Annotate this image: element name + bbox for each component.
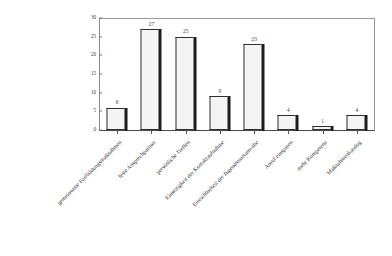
bar-body xyxy=(346,115,364,130)
x-axis-tick-mark xyxy=(117,130,118,134)
bar[interactable]: 4 xyxy=(278,115,299,130)
x-axis-tick-mark xyxy=(186,130,187,134)
bar-slot: 6 xyxy=(100,18,134,130)
y-axis-tick-label: 15 xyxy=(91,71,96,76)
bar[interactable]: 23 xyxy=(244,44,265,130)
bar-value-label: 23 xyxy=(251,37,256,42)
y-axis-tick-label: 20 xyxy=(91,53,96,58)
bar-shadow xyxy=(262,44,265,131)
bar-slot: 25 xyxy=(169,18,203,130)
x-axis-tick-mark xyxy=(323,130,324,134)
bar-body xyxy=(244,44,262,130)
bar-shadow xyxy=(227,96,230,131)
bars-container: 62725923414 xyxy=(100,18,374,130)
bar-shadow xyxy=(193,37,196,131)
bar-body xyxy=(312,126,330,130)
bar-value-label: 27 xyxy=(149,22,154,27)
y-axis-tick-label: 10 xyxy=(91,90,96,95)
bar-value-label: 6 xyxy=(116,100,119,105)
bar-shadow xyxy=(364,115,367,131)
x-axis-tick-mark xyxy=(288,130,289,134)
x-axis-tick-mark xyxy=(220,130,221,134)
bar[interactable]: 4 xyxy=(346,115,367,130)
bar-value-label: 1 xyxy=(321,119,324,124)
bar-body xyxy=(141,29,159,130)
x-axis-tick-mark xyxy=(151,130,152,134)
bar-body xyxy=(107,108,125,130)
bar[interactable]: 25 xyxy=(175,37,196,130)
x-axis-tick-mark xyxy=(254,130,255,134)
bar-value-label: 25 xyxy=(183,29,188,34)
bar-shadow xyxy=(159,29,162,131)
bar-body xyxy=(175,37,193,130)
bar[interactable]: 27 xyxy=(141,29,162,130)
bar-value-label: 4 xyxy=(356,108,359,113)
bar-slot: 9 xyxy=(203,18,237,130)
y-axis-tick-label: 5 xyxy=(94,109,97,114)
bar-slot: 1 xyxy=(306,18,340,130)
bar-chart-figure: 051015202530 62725923414 gemeinsame Fort… xyxy=(0,0,392,256)
bar-slot: 23 xyxy=(237,18,271,130)
bar-slot: 4 xyxy=(340,18,374,130)
bar-slot: 4 xyxy=(271,18,305,130)
x-axis-tick-mark xyxy=(357,130,358,134)
bar-slot: 27 xyxy=(134,18,168,130)
bar-body xyxy=(209,96,227,130)
y-axis-tick-label: 0 xyxy=(94,127,97,132)
bar[interactable]: 6 xyxy=(107,108,128,130)
bar[interactable]: 9 xyxy=(209,96,230,130)
y-axis-tick-label: 30 xyxy=(91,15,96,20)
bar-shadow xyxy=(296,115,299,131)
bar-value-label: 4 xyxy=(287,108,290,113)
bar-shadow xyxy=(330,126,333,131)
bar-value-label: 9 xyxy=(219,89,222,94)
y-axis-tick-label: 25 xyxy=(91,34,96,39)
bar-body xyxy=(278,115,296,130)
bar-shadow xyxy=(125,108,128,131)
